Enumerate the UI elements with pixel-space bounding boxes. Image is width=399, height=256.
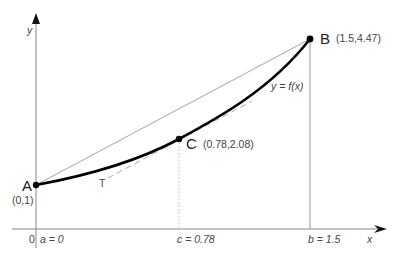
curve-label: y = f(x) [271,81,303,92]
tangent-label: T [99,178,105,189]
point-a [33,182,39,188]
origin-label: 0 [29,234,35,245]
y-axis-arrow-icon [32,13,40,24]
tick-label-c: c = 0.78 [177,234,215,245]
tick-label-b: b = 1.5 [308,234,340,245]
point-c [176,136,182,142]
x-axis-label: x [367,234,372,245]
secant-line-ab [36,39,310,185]
point-b [307,36,314,43]
point-b-label: B [320,31,330,46]
point-c-coords: (0.78,2.08) [203,139,254,150]
point-b-coords: (1.5,4.47) [336,33,381,44]
y-axis-label: y [27,25,32,36]
point-a-label: A [22,178,32,193]
point-a-coords: (0,1) [12,195,34,206]
point-c-label: C [186,136,197,151]
tick-label-a: a = 0 [40,234,64,245]
